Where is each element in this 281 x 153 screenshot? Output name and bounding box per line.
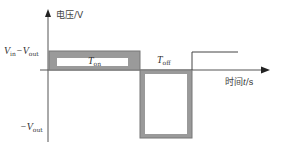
next-cycle-line [192,52,238,70]
level-low-label: −Vout [20,122,43,133]
toff-pulse-inner [145,74,187,134]
x-axis-arrow-icon [261,67,270,74]
y-axis-arrow-icon [45,9,51,17]
x-axis-label: 时间t/s [225,77,253,87]
level-high-label: Vin−Vout [4,46,39,57]
ton-label: Ton [88,56,101,67]
toff-label: Toff [157,55,170,66]
y-axis-label: 电压/V [56,11,83,20]
